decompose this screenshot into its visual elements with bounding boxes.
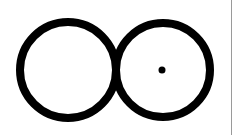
diagram-canvas xyxy=(0,0,234,135)
center-dot-shape xyxy=(159,67,166,74)
right-edge-divider xyxy=(231,0,232,135)
two-circles-symbol xyxy=(0,0,234,135)
left-circle-shape xyxy=(20,22,116,118)
